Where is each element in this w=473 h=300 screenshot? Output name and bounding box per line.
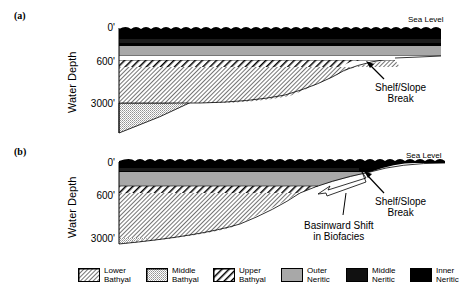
shelf-break-label-b: Shelf/Slope Break: [375, 196, 426, 218]
shelf-break-arrow-b: [368, 176, 384, 193]
lower-bathyal-swatch: [78, 268, 100, 282]
shelf-break-arrow-a: [370, 65, 384, 79]
tick-600-b: 600': [75, 190, 115, 201]
sea-level-label-a: Sea Level: [408, 15, 444, 24]
middle-neritic-swatch: [346, 268, 368, 282]
legend-outer-neritic: OuterNeritic: [281, 266, 330, 284]
panel-b-label: (b): [14, 146, 26, 157]
upper-bathyal-swatch: [213, 268, 235, 282]
sea-level-label-b: Sea Level: [406, 151, 442, 160]
y-axis-label-a: Water Depth: [66, 52, 78, 113]
basinward-shift-label: Basinward Shift in Biofacies: [304, 220, 373, 242]
tick-0-a: 0': [75, 22, 115, 33]
outer-neritic-swatch: [281, 268, 303, 282]
panel-a-label: (a): [14, 10, 26, 21]
biofacies-diagram: [0, 0, 473, 300]
legend-middle-bathyal: MiddleBathyal: [146, 266, 199, 284]
legend-upper-bathyal: UpperBathyal: [213, 266, 266, 284]
shelf-break-label-a: Shelf/Slope Break: [375, 82, 426, 104]
tick-600-a: 600': [75, 56, 115, 67]
legend-inner-neritic: InnerNeritic: [410, 266, 459, 284]
legend-lower-bathyal: LowerBathyal: [78, 266, 131, 284]
tick-3000-a: 3000': [75, 98, 115, 109]
tick-3000-b: 3000': [75, 233, 115, 244]
middle-bathyal-swatch: [146, 268, 168, 282]
y-axis-label-b: Water Depth: [66, 177, 78, 238]
legend-middle-neritic: MiddleNeritic: [346, 266, 396, 284]
inner-neritic-swatch: [410, 268, 432, 282]
tick-0-b: 0': [75, 157, 115, 168]
